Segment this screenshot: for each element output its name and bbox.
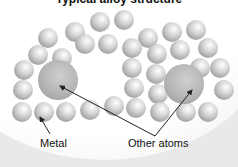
arrow [60,86,155,136]
pointer-arrows [0,0,238,167]
label-other-atoms: Other atoms [128,137,189,149]
arrow [40,117,50,134]
arrow [155,90,192,136]
label-metal: Metal [40,137,67,149]
